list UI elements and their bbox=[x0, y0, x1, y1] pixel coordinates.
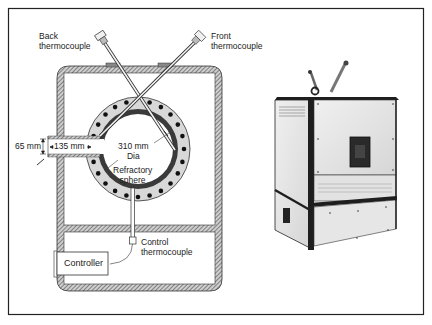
furnace-photo bbox=[275, 61, 399, 251]
front-thermocouple-label: Front thermocouple bbox=[211, 32, 263, 51]
control-thermocouple-label: Control thermocouple bbox=[141, 238, 193, 257]
sphere-diameter-label: 310 mm Dia bbox=[118, 142, 149, 161]
controller-label: Controller bbox=[64, 259, 103, 269]
refractory-sphere-label: Refractory sphere bbox=[113, 166, 152, 185]
back-thermocouple-label: Back thermocouple bbox=[39, 32, 91, 51]
pipe-height-label: 65 mm bbox=[15, 142, 41, 152]
pipe-length-label: 135 mm bbox=[54, 142, 85, 152]
